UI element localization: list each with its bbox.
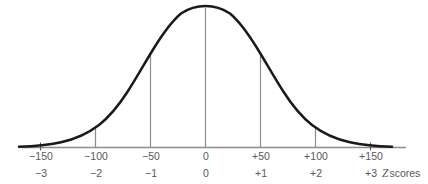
z-tick-label-minus1: −1	[121, 167, 181, 179]
raw-tick-label-zero: 0	[176, 150, 236, 162]
z-tick-label-minus2: −2	[66, 167, 126, 179]
raw-tick-label-minus50: −50	[121, 150, 181, 162]
raw-tick-label-minus100: −100	[66, 150, 126, 162]
z-tick-label-minus3: −3	[11, 167, 71, 179]
z-tick-label-plus1: +1	[231, 167, 291, 179]
raw-tick-label-plus150: +150	[341, 150, 401, 162]
raw-tick-label-plus100: +100	[286, 150, 346, 162]
raw-tick-label-plus50: +50	[231, 150, 291, 162]
normal-distribution-figure: −150 −100 −50 0 +50 +100 +150 −3 −2 −1 0…	[0, 0, 428, 184]
z-scores-axis-caption: Zscores	[382, 167, 420, 179]
z-scores-caption-text: scores	[389, 167, 420, 179]
z-tick-label-plus2: +2	[286, 167, 346, 179]
raw-tick-label-minus150: −150	[11, 150, 71, 162]
z-tick-label-zero: 0	[176, 167, 236, 179]
